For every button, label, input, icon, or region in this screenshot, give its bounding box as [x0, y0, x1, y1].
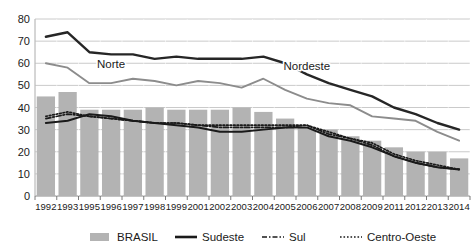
legend-swatch-bar	[90, 233, 109, 241]
bar	[37, 96, 55, 196]
bar	[189, 110, 207, 196]
bar	[319, 130, 337, 196]
y-tick-label: 40	[18, 102, 30, 114]
legend-label: Sul	[289, 231, 306, 243]
x-tick-label: 2013	[427, 201, 448, 212]
bar	[428, 152, 446, 196]
x-tick-label: 1999	[166, 201, 187, 212]
x-tick-label: 1992	[35, 201, 56, 212]
x-tick-label: 2001	[188, 201, 209, 212]
x-tick-label: 2008	[340, 201, 361, 212]
y-tick-label: 60	[18, 57, 30, 69]
x-axis-tick-labels: 1992199319951996199719981999200120022003…	[35, 201, 469, 212]
bar	[341, 136, 359, 196]
category-separators	[35, 19, 470, 196]
x-tick-label: 1997	[122, 201, 143, 212]
bar	[450, 158, 468, 196]
y-axis-tick-labels: 01020304050607080	[18, 13, 30, 202]
x-tick-label: 2002	[209, 201, 230, 212]
bar	[211, 110, 229, 196]
bar	[232, 108, 250, 197]
annotation-label: Nordeste	[284, 60, 331, 72]
x-tick-label: 2012	[405, 201, 426, 212]
x-tick-label: 2003	[231, 201, 252, 212]
bar	[276, 119, 294, 196]
x-tick-label: 2004	[253, 201, 274, 212]
x-tick-label: 1995	[79, 201, 100, 212]
y-tick-label: 50	[18, 79, 30, 91]
x-tick-label: 2006	[296, 201, 317, 212]
bar	[145, 108, 163, 197]
y-tick-label: 10	[18, 168, 30, 180]
y-tick-label: 0	[24, 190, 30, 202]
y-tick-label: 20	[18, 146, 30, 158]
legend-label: BRASIL	[117, 231, 159, 243]
x-tick-label: 1993	[57, 201, 78, 212]
x-axis-ticks	[35, 196, 470, 200]
legend-label: Centro-Oeste	[367, 231, 436, 243]
bar	[102, 110, 120, 196]
y-tick-label: 80	[18, 13, 30, 25]
annotation-label: Norte	[97, 58, 125, 70]
x-tick-label: 2005	[275, 201, 296, 212]
bar	[124, 110, 142, 196]
legend-label: Sudeste	[202, 231, 244, 243]
bar	[80, 110, 98, 196]
x-tick-label: 2014	[449, 201, 470, 212]
bar	[298, 127, 316, 196]
x-tick-label: 1998	[144, 201, 165, 212]
x-tick-label: 2011	[384, 201, 404, 212]
chart-container: 01020304050607080 NorteNorteNordesteNord…	[0, 0, 476, 251]
x-tick-label: 2007	[318, 201, 339, 212]
line-bar-chart: 01020304050607080 NorteNorteNordesteNord…	[0, 0, 476, 251]
x-tick-label: 2009	[362, 201, 383, 212]
y-tick-label: 70	[18, 35, 30, 47]
bar	[58, 92, 76, 196]
x-tick-label: 1996	[101, 201, 122, 212]
y-tick-label: 30	[18, 124, 30, 136]
